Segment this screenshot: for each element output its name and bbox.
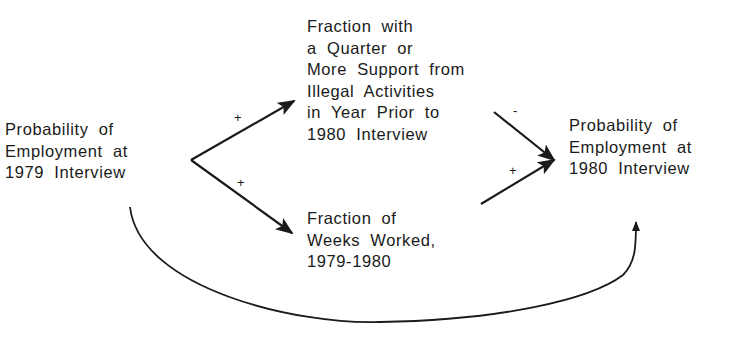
node-label-line: Probability of (5, 119, 128, 141)
node-label-line: 1980 Interview (569, 158, 692, 180)
edge-emp1979-to-illegal (191, 101, 294, 160)
node-label-line: in Year Prior to (307, 102, 465, 124)
edge-sign-illegal-emp1980: - (513, 103, 517, 118)
node-label-line: Weeks Worked, (307, 230, 436, 252)
node-label-line: a Quarter or (307, 38, 465, 60)
edge-emp1979-to-weeks (191, 160, 292, 233)
edge-illegal-to-emp1980 (494, 112, 554, 160)
edge-sign-emp1979-illegal: + (234, 110, 242, 125)
node-label-line: More Support from (307, 59, 465, 81)
node-label-line: 1979 Interview (5, 162, 128, 184)
node-label-line: Employment at (569, 137, 692, 159)
node-label-line: 1980 Interview (307, 124, 465, 146)
node-illegal-activities: Fraction with a Quarter or More Support … (307, 16, 465, 145)
node-label-line: 1979-1980 (307, 251, 436, 273)
node-employment-1980: Probability of Employment at 1980 Interv… (569, 115, 692, 180)
node-label-line: Fraction of (307, 208, 436, 230)
edge-sign-weeks-emp1980: + (509, 163, 517, 178)
node-employment-1979: Probability of Employment at 1979 Interv… (5, 119, 128, 184)
node-label-line: Fraction with (307, 16, 465, 38)
node-label-line: Employment at (5, 141, 128, 163)
edge-sign-emp1979-weeks: + (237, 175, 245, 190)
node-label-line: Illegal Activities (307, 81, 465, 103)
edge-weeks-to-emp1980 (481, 160, 554, 204)
node-weeks-worked: Fraction of Weeks Worked, 1979-1980 (307, 208, 436, 273)
node-label-line: Probability of (569, 115, 692, 137)
